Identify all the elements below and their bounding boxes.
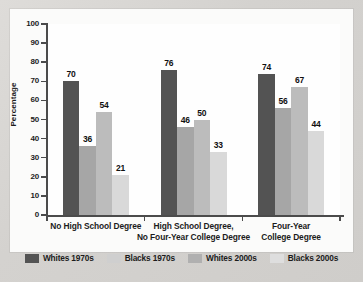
bar: 56	[275, 108, 292, 215]
bar-group: 70365421	[63, 24, 129, 215]
legend-label: Blacks 1970s	[125, 253, 175, 263]
y-tick-mark	[41, 61, 46, 63]
bar: 74	[258, 74, 275, 215]
legend-label: Whites 2000s	[206, 253, 257, 263]
legend-swatch	[25, 254, 39, 263]
bar-value-label: 21	[116, 163, 125, 173]
bar-value-label: 70	[67, 69, 76, 79]
legend-item[interactable]: Blacks 1970s	[107, 253, 175, 263]
x-axis-line	[46, 215, 344, 217]
y-tick-mark	[41, 214, 46, 216]
y-tick-mark	[41, 195, 46, 197]
bar: 21	[112, 175, 129, 215]
bar-value-label: 67	[295, 75, 304, 85]
bar-value-label: 74	[262, 62, 271, 72]
bar-group: 74566744	[258, 24, 324, 215]
y-tick-label: 30	[5, 153, 39, 162]
y-tick-label: 10	[5, 191, 39, 200]
bar: 67	[291, 87, 308, 215]
bar: 50	[194, 120, 211, 216]
legend-label: Blacks 2000s	[288, 253, 338, 263]
y-tick-mark	[41, 42, 46, 44]
legend-item[interactable]: Blacks 2000s	[270, 253, 338, 263]
legend-item[interactable]: Whites 1970s	[25, 253, 94, 263]
y-axis-label: Percentage	[9, 82, 18, 126]
bar-value-label: 46	[181, 115, 190, 125]
bar-value-label: 54	[100, 100, 109, 110]
y-tick-mark	[41, 23, 46, 25]
bar-group: 76465033	[161, 24, 227, 215]
y-tick-label: 90	[5, 38, 39, 47]
category-label-line: Four-Year	[226, 221, 356, 232]
chart-legend: Whites 1970sBlacks 1970sWhites 2000sBlac…	[10, 253, 353, 263]
bar-value-label: 76	[164, 58, 173, 68]
bar-value-label: 36	[83, 134, 92, 144]
y-tick-mark	[41, 100, 46, 102]
bar-value-label: 56	[278, 96, 287, 106]
bar-value-label: 44	[311, 119, 320, 129]
category-label-line: College Degree	[226, 232, 356, 243]
bar: 76	[161, 70, 178, 215]
y-tick-mark	[41, 119, 46, 121]
bar: 54	[96, 112, 113, 215]
y-tick-mark	[41, 138, 46, 140]
bar: 70	[63, 81, 80, 215]
y-tick-mark	[41, 81, 46, 83]
y-tick-label: 20	[5, 172, 39, 181]
y-tick-label: 0	[5, 210, 39, 219]
bar: 33	[210, 152, 227, 215]
y-tick-mark	[41, 176, 46, 178]
legend-item[interactable]: Whites 2000s	[188, 253, 257, 263]
bar: 46	[177, 127, 194, 215]
bar: 44	[308, 131, 325, 215]
y-axis-line	[46, 23, 48, 216]
y-tick-label: 100	[5, 19, 39, 28]
category-label: Four-YearCollege Degree	[226, 221, 356, 242]
legend-swatch	[107, 254, 121, 263]
bar-value-label: 50	[197, 108, 206, 118]
y-tick-label: 40	[5, 134, 39, 143]
y-tick-mark	[41, 157, 46, 159]
bar: 36	[79, 146, 96, 215]
legend-swatch	[270, 254, 284, 263]
bar-value-label: 33	[214, 140, 223, 150]
legend-swatch	[188, 254, 202, 263]
legend-label: Whites 1970s	[43, 253, 94, 263]
y-tick-label: 80	[5, 57, 39, 66]
chart-figure: 1009080706050403020100 Percentage 703654…	[0, 0, 363, 282]
